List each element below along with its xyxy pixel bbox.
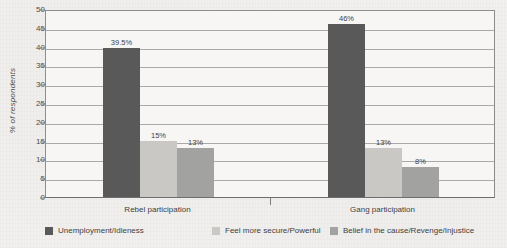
legend-label: Unemployment/Idleness bbox=[58, 226, 144, 235]
bar-value-label: 8% bbox=[402, 158, 439, 166]
bar bbox=[402, 167, 439, 197]
legend-item: Belief in the cause/Revenge/Injustice bbox=[330, 226, 474, 235]
plot-area: 39.5%15%13%46%13%8% bbox=[45, 10, 495, 198]
bar bbox=[140, 141, 177, 197]
legend-label: Feel more secure/Powerful bbox=[225, 226, 321, 235]
bar-value-label: 15% bbox=[140, 132, 177, 140]
plot-area-wrapper: 39.5%15%13%46%13%8% bbox=[45, 10, 495, 198]
bar-value-label: 13% bbox=[365, 139, 402, 147]
bar bbox=[328, 24, 365, 197]
category-divider bbox=[270, 198, 271, 205]
legend-swatch-icon bbox=[45, 227, 53, 235]
legend-item: Unemployment/Idleness bbox=[45, 226, 144, 235]
bar bbox=[177, 148, 214, 197]
bar bbox=[365, 148, 402, 197]
bar-chart: % of respondents 05101520253035404550 39… bbox=[0, 0, 507, 248]
x-axis-categories: Rebel participationGang participation bbox=[45, 198, 495, 220]
legend-label: Belief in the cause/Revenge/Injustice bbox=[343, 226, 474, 235]
gridline bbox=[46, 30, 494, 31]
legend-swatch-icon bbox=[212, 227, 220, 235]
bar-value-label: 13% bbox=[177, 139, 214, 147]
x-axis-category-label: Gang participation bbox=[270, 205, 495, 214]
y-axis-ticks: 05101520253035404550 bbox=[0, 10, 45, 198]
legend-swatch-icon bbox=[330, 227, 338, 235]
bar-value-label: 39.5% bbox=[103, 39, 140, 47]
bar-value-label: 46% bbox=[328, 15, 365, 23]
chart-legend: Unemployment/IdlenessFeel more secure/Po… bbox=[0, 226, 507, 242]
legend-item: Feel more secure/Powerful bbox=[212, 226, 321, 235]
x-axis-category-label: Rebel participation bbox=[45, 205, 270, 214]
bar bbox=[103, 48, 140, 197]
